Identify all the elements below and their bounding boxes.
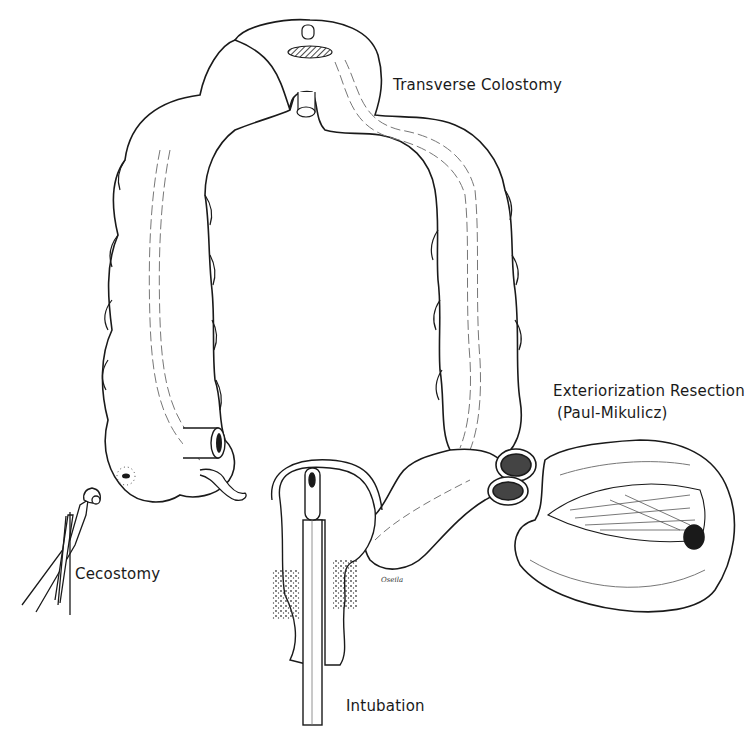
label-intubation: Intubation <box>346 697 425 715</box>
rectum <box>272 460 382 665</box>
cecostomy-tube <box>22 488 100 615</box>
sigmoid-colon <box>365 449 504 569</box>
label-cecostomy: Cecostomy <box>75 565 160 583</box>
artist-signature: Oseila <box>381 576 403 584</box>
cecostomy-site <box>122 474 130 479</box>
label-transverse-colostomy: Transverse Colostomy <box>393 76 562 94</box>
colostomy-stoma <box>288 46 332 58</box>
colon-illustration: Transverse Colostomy Exteriorization Res… <box>0 0 745 741</box>
ileum <box>183 428 225 458</box>
intubation-tube <box>303 468 322 725</box>
colon-drawing <box>0 0 745 741</box>
label-paul-mikulicz: (Paul-Mikulicz) <box>557 404 668 422</box>
label-exteriorization-resection: Exteriorization Resection <box>553 382 745 400</box>
resected-segment <box>515 440 734 612</box>
